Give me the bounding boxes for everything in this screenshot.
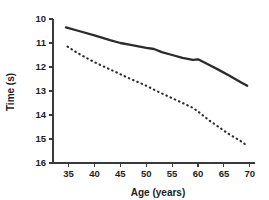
y-axis-ticks: 10111213141516	[35, 13, 53, 168]
x-tick-label: 45	[115, 168, 126, 179]
x-tick-label: 35	[63, 168, 74, 179]
x-tick-label: 40	[89, 168, 100, 179]
data-series-solid-line	[66, 27, 247, 85]
y-tick-label: 14	[35, 109, 46, 120]
y-tick-label: 12	[35, 61, 46, 72]
x-axis-ticks: 3540455055606570	[63, 163, 255, 179]
x-tick-label: 65	[219, 168, 230, 179]
chart-figure: 10111213141516 3540455055606570 Age (yea…	[0, 0, 269, 200]
data-series-dotted-line	[68, 47, 248, 146]
y-tick-label: 13	[35, 85, 46, 96]
x-tick-label: 55	[167, 168, 178, 179]
x-tick-label: 60	[193, 168, 204, 179]
x-axis-title: Age (years)	[131, 187, 185, 198]
y-axis-title: Time (s)	[5, 73, 16, 111]
y-tick-label: 15	[35, 133, 46, 144]
x-tick-label: 70	[245, 168, 256, 179]
y-tick-label: 11	[36, 37, 47, 48]
x-tick-label: 50	[141, 168, 152, 179]
y-tick-label: 10	[35, 13, 46, 24]
y-tick-label: 16	[35, 157, 46, 168]
chart-plot-area: 10111213141516 3540455055606570 Age (yea…	[0, 0, 269, 200]
